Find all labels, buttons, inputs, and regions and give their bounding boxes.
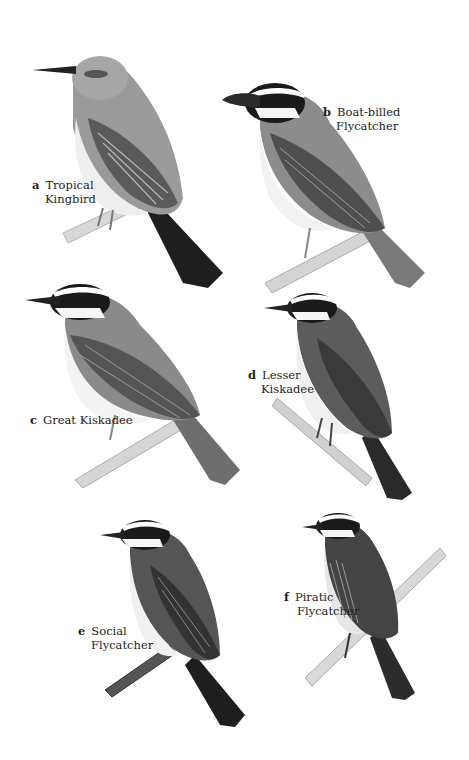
label-name: Tropical xyxy=(45,178,93,192)
bird-social-flycatcher-illustration xyxy=(100,515,250,730)
label-piratic-flycatcher: fPiratic Flycatcher xyxy=(284,590,359,618)
label-boat-billed-flycatcher: bBoat-billed Flycatcher xyxy=(323,105,400,133)
label-tropical-kingbird: aTropical Kingbird xyxy=(32,178,96,206)
label-name-line2: Kingbird xyxy=(32,192,96,206)
bird-tropical-kingbird-illustration xyxy=(28,48,228,293)
label-letter: f xyxy=(284,590,289,604)
label-name: Great Kiskadee xyxy=(43,413,133,427)
label-name-line2: Flycatcher xyxy=(78,638,153,652)
label-name: Piratic xyxy=(295,590,334,604)
label-great-kiskadee: cGreat Kiskadee xyxy=(30,413,133,427)
label-name-line2: Kiskadee xyxy=(248,382,314,396)
label-letter: a xyxy=(32,178,39,192)
label-letter: b xyxy=(323,105,331,119)
label-letter: d xyxy=(248,368,256,382)
label-name-line2: Flycatcher xyxy=(284,604,359,618)
label-name: Social xyxy=(91,624,126,638)
label-name-line2: Flycatcher xyxy=(323,119,400,133)
label-letter: c xyxy=(30,413,37,427)
label-name: Boat-billed xyxy=(337,105,400,119)
label-name: Lesser xyxy=(262,368,301,382)
bird-great-kiskadee-illustration xyxy=(25,280,245,490)
label-social-flycatcher: eSocial Flycatcher xyxy=(78,624,153,652)
label-lesser-kiskadee: dLesser Kiskadee xyxy=(248,368,314,396)
illustration-plate: aTropical Kingbird bBoat-billed Flycatch… xyxy=(0,0,469,760)
label-letter: e xyxy=(78,624,85,638)
